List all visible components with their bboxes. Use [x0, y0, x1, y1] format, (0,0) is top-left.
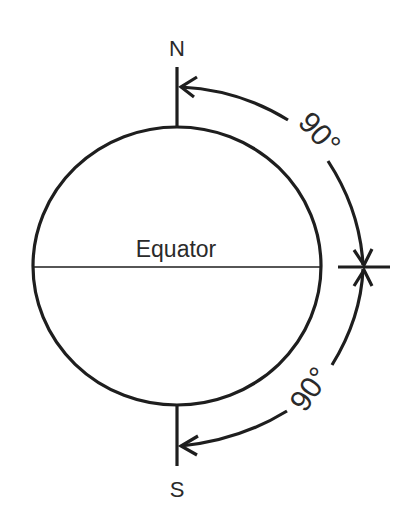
- upper-arc-segment-1: [181, 87, 288, 120]
- globe-diagram: Equator N S 90° 90°: [0, 0, 409, 519]
- upper-arc-segment-2: [328, 161, 363, 265]
- lower-arc-segment-1: [332, 269, 363, 365]
- equator-label: Equator: [136, 236, 217, 262]
- north-label: N: [169, 36, 185, 61]
- globe-circle: [33, 127, 321, 405]
- angle-label-upper: 90°: [292, 105, 347, 161]
- lower-arc-segment-2: [181, 411, 287, 446]
- south-label: S: [170, 477, 185, 502]
- angle-label-lower: 90°: [283, 361, 336, 417]
